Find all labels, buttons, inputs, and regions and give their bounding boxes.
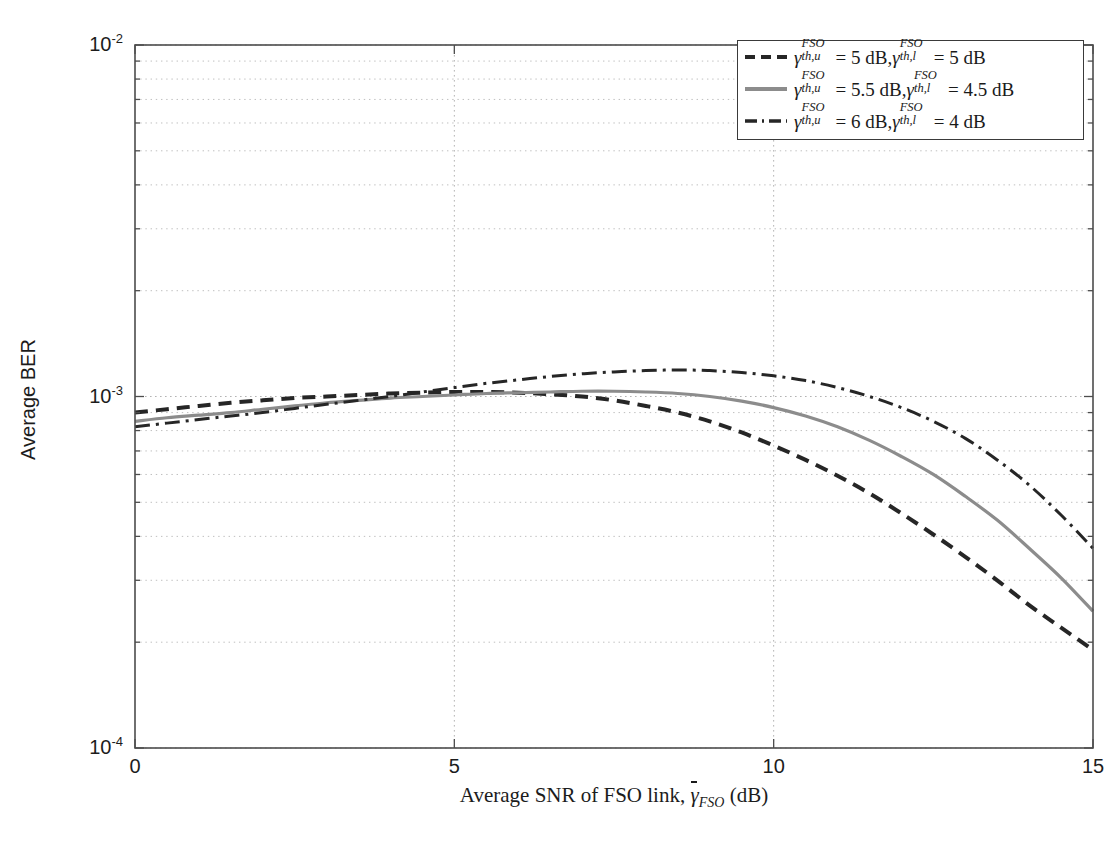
legend-key-dashed — [738, 41, 794, 73]
gamma-bar-symbol: γ — [690, 783, 698, 808]
x-axis-label-post: (dB) — [724, 783, 768, 807]
legend-key-dashdot — [738, 105, 794, 137]
y-tick-label-0: 10-2 — [39, 31, 123, 56]
grid-lines — [135, 45, 1093, 748]
legend-item-2[interactable]: γFSOth,u= 6 dB,γFSOth,l= 4 dB — [738, 105, 1083, 137]
y-axis-label: Average BER — [17, 310, 40, 490]
legend-box: γFSOth,u= 5 dB,γFSOth,l= 5 dB γFSOth,u= … — [737, 40, 1084, 140]
x-axis-label-pre: Average SNR of FSO link, — [460, 783, 691, 807]
legend-label-1: γFSOth,u= 5.5 dB,γFSOth,l= 4.5 dB — [794, 77, 1014, 102]
x-tick-label-1: 5 — [434, 755, 474, 778]
y-tick-label-1: 10-3 — [39, 383, 123, 408]
series-group — [135, 370, 1093, 650]
y-tick-label-2: 10-4 — [39, 734, 123, 759]
gamma-subscript-fso: FSO — [699, 796, 725, 810]
series-line-2 — [135, 370, 1093, 548]
x-tick-label-2: 10 — [754, 755, 794, 778]
legend-item-0[interactable]: γFSOth,u= 5 dB,γFSOth,l= 5 dB — [738, 41, 1083, 73]
figure-root: Average BER Average SNR of FSO link, γFS… — [0, 0, 1118, 856]
series-line-1 — [135, 391, 1093, 611]
legend-key-solid — [738, 73, 794, 105]
legend-label-2: γFSOth,u= 6 dB,γFSOth,l= 4 dB — [794, 109, 986, 134]
x-tick-label-3: 15 — [1073, 755, 1113, 778]
legend-label-0: γFSOth,u= 5 dB,γFSOth,l= 5 dB — [794, 45, 986, 70]
x-axis-label: Average SNR of FSO link, γFSO (dB) — [135, 783, 1093, 810]
x-tick-label-0: 0 — [115, 755, 155, 778]
